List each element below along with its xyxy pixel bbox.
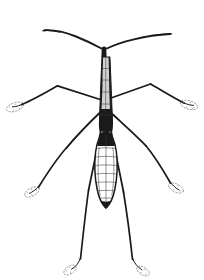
head-group bbox=[101, 47, 106, 59]
insect-drawing-canvas bbox=[0, 0, 204, 280]
thorax-group bbox=[99, 57, 113, 132]
insect-illustration-figure: Stick insect line drawing elongate-bodie… bbox=[0, 0, 204, 280]
